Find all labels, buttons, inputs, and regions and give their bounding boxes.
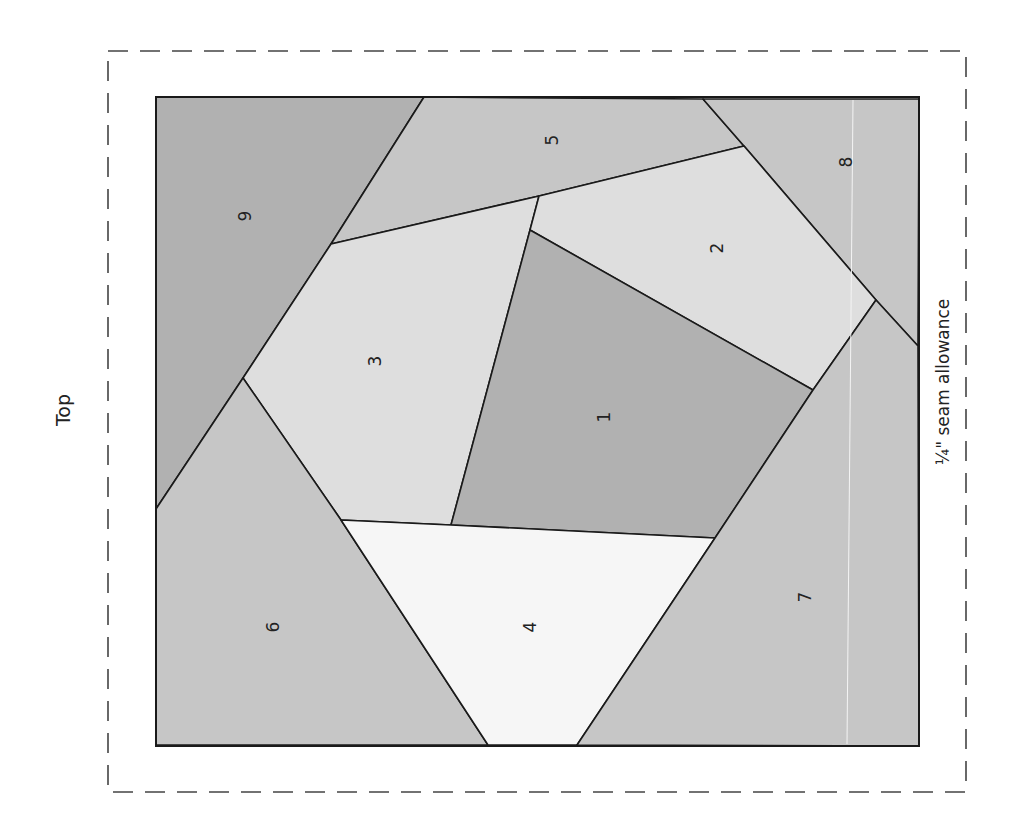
piece-label-2: 2 (707, 243, 727, 254)
piece-label-5: 5 (542, 135, 562, 146)
seam-allowance-label: ¼" seam allowance (933, 299, 953, 466)
piece-label-7: 7 (795, 592, 815, 603)
block-pieces (156, 97, 919, 746)
top-label: Top (52, 394, 74, 427)
quilt-block-diagram: 1 2 3 4 5 6 7 8 9 Top ¼" seam allowance (0, 0, 1028, 836)
piece-label-8: 8 (836, 157, 856, 168)
piece-label-6: 6 (263, 622, 283, 633)
piece-label-3: 3 (365, 356, 385, 367)
piece-label-9: 9 (235, 211, 255, 222)
piece-label-4: 4 (520, 622, 540, 633)
piece-label-1: 1 (594, 412, 614, 423)
